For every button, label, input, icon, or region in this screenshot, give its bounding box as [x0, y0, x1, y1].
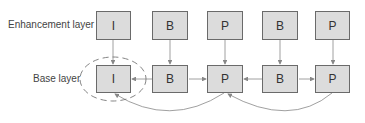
- enhancement-frame-3: P: [207, 11, 243, 40]
- enhancement-frame-1: I: [96, 11, 131, 40]
- base-frame-3: P: [207, 65, 243, 93]
- enhancement-frame-4: B: [262, 11, 298, 40]
- base-frame-4: B: [262, 65, 298, 93]
- base-frame-2: B: [152, 65, 188, 93]
- enhancement-frame-2: B: [152, 11, 188, 40]
- enhancement-frame-5: P: [315, 11, 350, 40]
- base-frame-5: P: [315, 65, 350, 93]
- base-frame-1: I: [96, 65, 131, 93]
